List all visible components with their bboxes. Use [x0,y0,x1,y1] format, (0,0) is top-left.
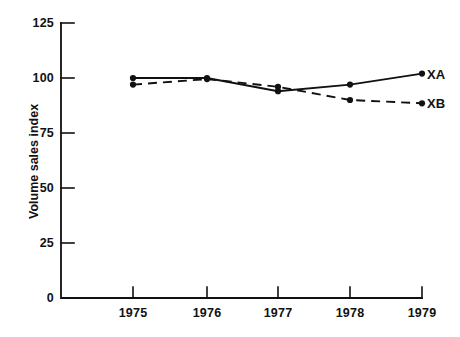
y-tick-label-25: 25 [16,237,54,250]
x-tick-label-1979: 1979 [408,307,437,320]
x-tick-label-1978: 1978 [336,307,365,320]
y-tick-label-125: 125 [16,17,54,30]
y-axis-ticks [61,23,74,243]
x-axis-ticks [133,287,422,298]
series-markers-xa [130,71,425,95]
y-tick-label-100: 100 [16,72,54,85]
x-tick-label-1975: 1975 [119,307,148,320]
series-label-xb: XB [427,97,445,110]
axis-spines [61,23,422,298]
series-label-xa: XA [427,67,445,80]
y-tick-label-50: 50 [16,182,54,195]
y-axis-title: Volume sales index [28,104,41,219]
y-tick-label-0: 0 [16,292,54,305]
y-tick-label-75: 75 [16,127,54,140]
line-chart-plot [0,0,460,337]
x-tick-label-1977: 1977 [264,307,293,320]
chart-figure: Volume sales index 125 100 75 50 25 0 19… [0,0,460,337]
x-tick-label-1976: 1976 [193,307,222,320]
